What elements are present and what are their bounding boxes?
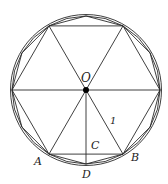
label-radius-1: 1 [110, 115, 116, 126]
geometry-figure: O A B C D 1 [0, 0, 168, 184]
label-O: O [81, 71, 91, 85]
label-B: B [130, 151, 139, 164]
label-D: D [81, 168, 91, 181]
center-point-O [83, 87, 89, 93]
label-C: C [91, 139, 100, 152]
label-A: A [33, 155, 42, 168]
